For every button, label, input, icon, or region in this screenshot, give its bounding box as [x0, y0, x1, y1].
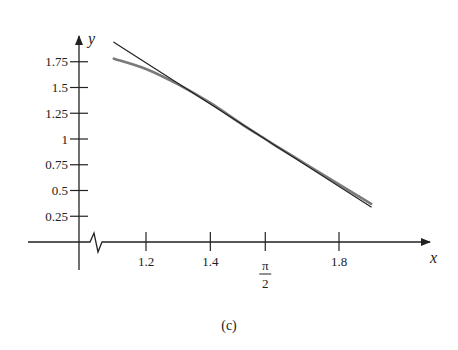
- y-tick-label: 0.75: [45, 157, 68, 172]
- labels: 0.250.50.7511.251.51.751.21.4π21.8yx(c): [45, 30, 437, 334]
- x-tick-label-denominator: 2: [262, 276, 269, 291]
- x-axis: [28, 233, 430, 252]
- tangent-line: [114, 42, 371, 207]
- x-axis-label: x: [429, 249, 437, 266]
- chart: 0.250.50.7511.251.51.751.21.4π21.8yx(c): [0, 0, 458, 350]
- y-tick-label: 0.25: [45, 209, 68, 224]
- series: [114, 42, 371, 207]
- x-tick-label: 1.8: [331, 254, 347, 269]
- y-tick-label: 1.25: [45, 106, 68, 121]
- y-tick-label: 1: [62, 132, 69, 147]
- x-tick-label: 1.4: [202, 254, 219, 269]
- y-tick-label: 1.5: [52, 80, 68, 95]
- x-tick-label-numerator: π: [262, 258, 269, 273]
- figure-caption: (c): [221, 318, 237, 334]
- y-tick-label: 1.75: [45, 54, 68, 69]
- y-axis-label: y: [86, 30, 96, 48]
- x-tick-label: 1.2: [138, 254, 154, 269]
- y-tick-label: 0.5: [52, 183, 68, 198]
- axes: [28, 36, 430, 270]
